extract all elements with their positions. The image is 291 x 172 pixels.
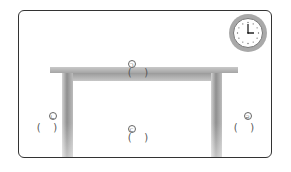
clock-face [233,18,263,48]
label-b: ( ) [31,113,57,133]
clock-icon [229,14,267,52]
label-d-blank[interactable]: ( ) [234,122,255,133]
clock-hands [234,19,262,47]
label-c: ㄷ ( ) [122,113,148,143]
label-a-blank[interactable]: ( ) [128,67,149,78]
table-leg-left [62,73,73,158]
label-c-blank[interactable]: ( ) [128,132,149,143]
label-d: ( ) [228,113,254,133]
label-b-blank[interactable]: ( ) [37,122,58,133]
label-a: ㄱ ( ) [122,48,148,78]
table-leg-right [211,73,222,158]
